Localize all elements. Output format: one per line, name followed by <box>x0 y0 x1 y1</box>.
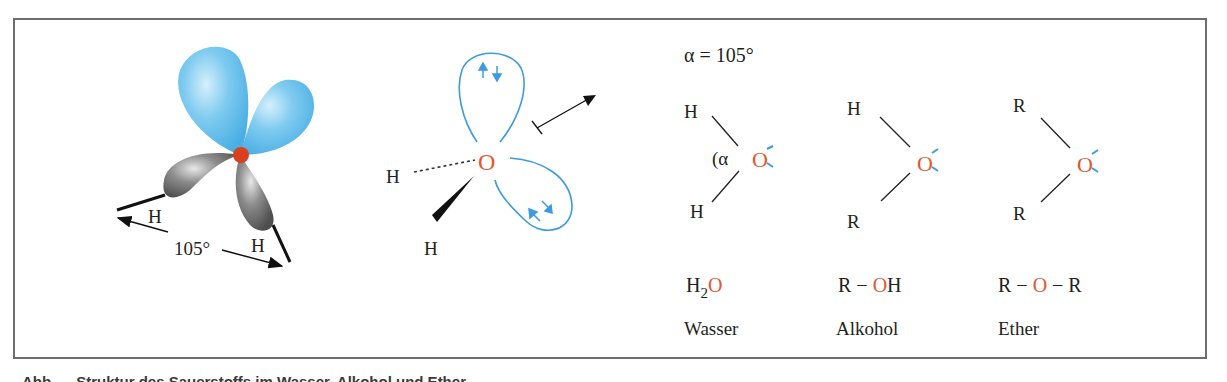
wedge-bond <box>432 176 474 222</box>
structure-alcohol: H O R <box>847 98 938 232</box>
angle-equation: α = 105° <box>684 44 754 66</box>
oxygen-nucleus <box>233 147 249 163</box>
formula-alcohol: R − OH <box>838 274 902 296</box>
atom-bottom: R <box>1013 203 1026 224</box>
lone-pair-lobe-left <box>178 47 248 155</box>
structure-water: H (α O H <box>684 101 773 222</box>
atom-oxygen: O <box>752 147 768 172</box>
atom-oxygen: O <box>1077 152 1093 177</box>
atom-top: H <box>684 101 698 122</box>
name-water: Wasser <box>684 318 739 339</box>
formula-ether: R − O − R <box>998 274 1082 296</box>
bond-lobe-left <box>163 153 240 197</box>
figure-diagram: H H 105° O H H α = 105° <box>0 0 1227 382</box>
dashed-bond <box>414 160 475 172</box>
atom-bottom: H <box>690 201 704 222</box>
orbital-outline-bottom <box>495 158 572 230</box>
label-h-wedge: H <box>424 238 438 259</box>
electron-pair-bottom <box>529 201 552 221</box>
label-h-right: H <box>251 235 265 256</box>
label-h-dashed: H <box>386 166 400 187</box>
figure-caption-truncated: Abb. ... Struktur des Sauerstoffs im Was… <box>22 371 1212 382</box>
atom-top: R <box>1013 95 1026 116</box>
structure-ether: R O R <box>1013 95 1098 224</box>
orbital-outline-top <box>459 53 524 142</box>
bond-lobe-right <box>236 155 274 231</box>
panel-structures: α = 105° H (α O H H O R R O <box>684 44 1098 339</box>
label-angle-105: 105° <box>174 238 210 259</box>
lone-pair-lobe-right <box>240 80 314 155</box>
panel-3d-orbital-model: H H 105° <box>117 47 314 266</box>
atom-top: H <box>847 98 861 119</box>
panel-orbital-sketch: O H H <box>386 53 596 259</box>
electron-pair-top <box>479 63 501 81</box>
name-alcohol: Alkohol <box>836 318 898 339</box>
angle-alpha-mark: (α <box>712 148 728 170</box>
dipole-arrow <box>537 98 590 128</box>
label-oxygen: O <box>478 149 495 175</box>
name-ether: Ether <box>998 318 1040 339</box>
label-h-left: H <box>148 206 162 227</box>
formula-water: H2O <box>686 274 722 301</box>
atom-oxygen: O <box>917 151 933 176</box>
atom-bottom: R <box>847 211 860 232</box>
